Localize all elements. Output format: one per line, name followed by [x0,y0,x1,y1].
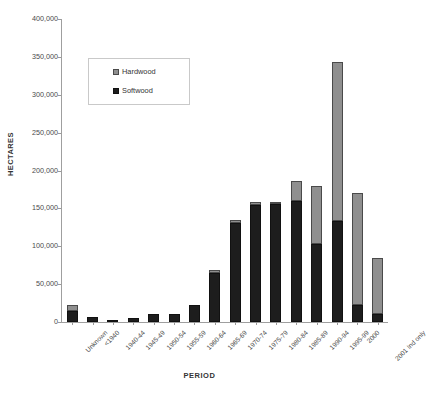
x-tick-mark [337,322,338,325]
x-tick-mark [357,322,358,325]
bar-segment-hardwood [352,193,363,305]
x-tick-label: 1990-94 [328,329,350,351]
bar-group [291,181,302,322]
y-tick-label: 300,000 [10,91,58,98]
y-tick-label: 250,000 [10,129,58,136]
bar-segment-softwood [189,305,200,322]
y-tick-label: 0 [10,318,58,325]
bar-segment-softwood [372,314,383,322]
x-axis-line [61,322,388,323]
x-tick-label: 1975-79 [267,329,289,351]
x-axis-title: PERIOD [0,371,399,380]
x-tick-label: 1965-69 [226,329,248,351]
legend-item-softwood: Softwood [113,87,153,94]
x-tick-mark [194,322,195,325]
bar-group [270,202,281,322]
x-tick-mark [378,322,379,325]
y-tick-label: 150,000 [10,204,58,211]
bar-group [332,62,343,322]
bar-segment-hardwood [332,62,343,221]
x-tick-mark [154,322,155,325]
bar-segment-hardwood [291,181,302,201]
bar-group [230,220,241,322]
y-tick-mark [58,171,61,172]
y-tick-label: 350,000 [10,53,58,60]
x-tick-mark [72,322,73,325]
bar-group [209,270,220,322]
x-tick-mark [235,322,236,325]
bar-segment-softwood [209,273,220,322]
x-tick-label: 1960-64 [206,329,228,351]
bar-segment-softwood [67,311,78,322]
y-tick-label: 50,000 [10,280,58,287]
x-tick-mark [276,322,277,325]
x-tick-mark [93,322,94,325]
y-tick-mark [58,57,61,58]
bar-group [311,186,322,322]
bar-group [148,314,159,322]
bar-segment-hardwood [311,186,322,244]
bar-group [250,202,261,322]
x-tick-label: 1940-44 [124,329,146,351]
y-tick-mark [58,246,61,247]
x-tick-mark [296,322,297,325]
y-tick-label: 200,000 [10,167,58,174]
bar-segment-softwood [230,223,241,322]
y-axis-ticks: 050,000100,000150,000200,000250,000300,0… [10,0,58,396]
softwood-swatch-icon [113,88,119,94]
bar-group [169,314,180,322]
chart-legend: Hardwood Softwood [88,58,190,105]
x-tick-label: 1985-89 [307,329,329,351]
bar-segment-softwood [311,244,322,322]
x-tick-mark [133,322,134,325]
x-tick-label: 1950-54 [165,329,187,351]
x-tick-label: 1955-59 [185,329,207,351]
y-tick-mark [58,322,61,323]
bar-group [352,193,363,322]
x-tick-mark [215,322,216,325]
legend-label-softwood: Softwood [122,87,153,94]
bar-segment-softwood [291,201,302,322]
legend-label-hardwood: Hardwood [122,68,156,75]
bar-segment-softwood [250,205,261,322]
legend-item-hardwood: Hardwood [113,68,156,75]
y-tick-mark [58,133,61,134]
x-tick-label: 1980-84 [287,329,309,351]
y-tick-mark [58,208,61,209]
y-tick-label: 100,000 [10,242,58,249]
bar-segment-softwood [270,204,281,322]
x-tick-mark [113,322,114,325]
y-tick-mark [58,19,61,20]
y-tick-mark [58,95,61,96]
bar-group [189,305,200,322]
x-tick-label: 1970-74 [246,329,268,351]
bar-segment-softwood [332,221,343,322]
bar-segment-hardwood [372,258,383,315]
bar-group [67,305,78,322]
bar-segment-softwood [169,314,180,322]
x-tick-mark [256,322,257,325]
hardwood-swatch-icon [113,69,119,75]
bar-segment-softwood [148,314,159,322]
bar-segment-softwood [352,305,363,322]
x-tick-label: 1945-49 [144,329,166,351]
x-tick-mark [174,322,175,325]
y-tick-label: 400,000 [10,15,58,22]
x-tick-mark [317,322,318,325]
y-tick-mark [58,284,61,285]
x-tick-label: 2001 Ind only [393,329,426,362]
bar-group [372,258,383,322]
